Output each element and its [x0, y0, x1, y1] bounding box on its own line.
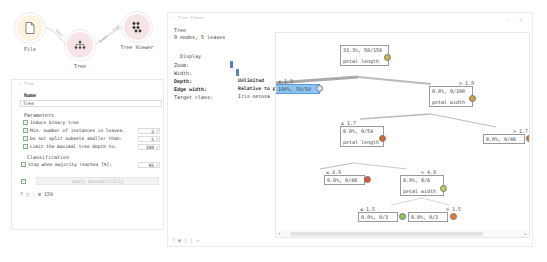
zoom-slider[interactable] [230, 61, 233, 68]
tree-node-root[interactable]: 33.3%, 50/150 petal length [340, 45, 389, 66]
max-depth-checkbox[interactable]: ✓ [23, 144, 28, 149]
spin-arrows-icon[interactable]: ▴▾ [156, 163, 158, 168]
min-instances-checkbox[interactable]: ✓ [23, 128, 28, 133]
min-instances-value: 2 [151, 129, 154, 134]
divider: | [190, 237, 193, 243]
tree-node-petal-width[interactable]: 0.0%, 0/100 petal width [429, 86, 473, 107]
node-content: 0.0%, 0/54 [343, 128, 381, 134]
scroll-left-icon[interactable]: ◂ [278, 230, 280, 237]
workflow-canvas: Data Model → Tree File Tree Tree Vi [0, 0, 165, 62]
pie-chart-icon [399, 213, 406, 220]
target-class-value: Iris-setosa [238, 94, 270, 99]
zoom-label: Zoom: [174, 62, 189, 68]
apply-row: ✓ Apply Automatically [21, 177, 159, 185]
node-content: 33.3%, 50/150 [343, 47, 386, 53]
viewer-footer: ? ▣ ▢ | ▭ [172, 237, 199, 243]
info-text: 9 nodes, 5 leaves [174, 34, 225, 40]
induce-binary-checkbox[interactable]: ✓ [23, 120, 28, 125]
scroll-right-icon[interactable]: ▸ [525, 230, 527, 237]
width-slider[interactable] [236, 69, 239, 76]
node-content: 0.0%, 0/48 [327, 177, 362, 183]
node-content: 0.0%, 0/3 [411, 214, 445, 220]
stop-majority-value: 95 [149, 163, 154, 168]
info-title: Tree [174, 27, 186, 33]
pie-chart-icon [379, 135, 386, 142]
min-split-value: 5 [151, 137, 154, 142]
min-split-checkbox[interactable]: ✓ [23, 136, 28, 141]
depth-label: Depth: [174, 78, 192, 84]
spin-arrows-icon[interactable]: ▴▾ [156, 137, 158, 142]
save-image-icon[interactable]: ▣ [178, 237, 181, 243]
tree-node-petal-width-2[interactable]: 0.0%, 0/6 petal width [400, 175, 444, 196]
min-instances-spinbox[interactable]: 2▴▾ [138, 128, 160, 134]
pie-chart-icon [469, 95, 476, 102]
tree-panel-title-bar: ⑂ Tree [12, 80, 163, 87]
tree-panel-title: Tree [24, 81, 34, 86]
node-attribute: petal width [403, 188, 441, 194]
tree-small-icon: ⑂ [19, 81, 21, 86]
tree-node-petal-length[interactable]: 0.0%, 0/54 petal length [340, 126, 384, 147]
tree-viewer-widget-label: Tree Viewer [120, 44, 153, 50]
tree-node-leaf-48[interactable]: 0.0%, 0/48 [324, 175, 365, 185]
node-content: 0.0%, 0/46 [486, 136, 522, 142]
classification-title: Classification [27, 154, 69, 160]
tree-node-leaf-virginica[interactable]: 0.0%, 0/46 [483, 134, 525, 144]
pie-chart-icon [316, 85, 323, 92]
pie-chart-icon [526, 135, 530, 142]
tree-canvas[interactable]: 33.3%, 50/150 petal length ≤ 1.9 100%, 5… [275, 32, 530, 238]
data-input-icon: ≡ [38, 191, 41, 197]
target-class-label: Target class: [174, 94, 213, 100]
max-depth-label: Limit the maximal tree depth to: [30, 144, 138, 149]
instance-count: 150 [44, 191, 53, 197]
report-icon[interactable]: ▢ [184, 237, 187, 243]
file-widget[interactable] [17, 15, 43, 41]
horizontal-scrollbar[interactable]: ◂ ▸ [276, 230, 529, 237]
width-label: Width: [174, 70, 192, 76]
file-widget-label: File [24, 46, 36, 52]
pie-chart-icon [450, 213, 457, 220]
param-min-instances: ✓ Min. number of instances in leaves: 2▴… [23, 127, 160, 134]
name-label: Name [24, 92, 36, 98]
min-split-label: Do not split subsets smaller than: [30, 136, 138, 141]
node-attribute: petal length [343, 139, 381, 145]
stop-majority-checkbox[interactable]: ✓ [21, 162, 26, 167]
display-title: Display [180, 53, 201, 59]
scrollbar-thumb[interactable] [290, 232, 483, 237]
max-depth-spinbox[interactable]: 100▴▾ [138, 144, 160, 150]
node-content: 0.0%, 0/100 [432, 88, 470, 94]
report-icon[interactable]: ▢ [26, 191, 29, 197]
apply-auto-checkbox[interactable]: ✓ [21, 179, 26, 184]
viewer-title-bar: ⑂ Tree Viewer [168, 13, 532, 21]
window-controls[interactable]: – × [506, 17, 526, 22]
apply-button[interactable]: Apply Automatically [36, 177, 159, 185]
param-max-depth: ✓ Limit the maximal tree depth to: 100▴▾ [23, 143, 160, 150]
pie-chart-icon [384, 54, 391, 61]
spin-arrows-icon[interactable]: ▴▾ [156, 145, 158, 150]
min-split-spinbox[interactable]: 5▴▾ [138, 136, 160, 142]
help-icon[interactable]: ? [172, 237, 175, 243]
parameters-title: Parameters [24, 112, 54, 118]
min-instances-label: Min. number of instances in leaves: [30, 128, 138, 133]
param-stop-majority: ✓ Stop when majority reaches [%]: 95▴▾ [21, 161, 160, 168]
edge-label: > 1.5 [446, 206, 461, 212]
pie-chart-icon [440, 185, 447, 192]
tree-viewer-small-icon: ⑂ [172, 15, 174, 20]
node-content: 0.0%, 0/6 [403, 177, 441, 183]
name-input[interactable]: Tree [20, 100, 162, 107]
node-attribute: petal length [343, 58, 386, 64]
spin-arrows-icon[interactable]: ▴▾ [156, 129, 158, 134]
max-depth-value: 100 [146, 145, 154, 150]
tree-node-leaf-versicolor[interactable]: 0.0%, 0/3 [358, 212, 398, 222]
divider: | [32, 191, 35, 197]
tree-widget-panel: ⑂ Tree Name Tree Parameters ✓ Induce bin… [11, 79, 164, 230]
tree-node-leaf-setosa[interactable]: 100%, 50/50 [275, 84, 320, 94]
tree-viewer-window: ⑂ Tree Viewer – × Tree 9 nodes, 5 leaves… [167, 12, 533, 247]
tree-node-leaf-virginica-2[interactable]: 0.0%, 0/3 [408, 212, 448, 222]
tree-viewer-widget[interactable] [124, 14, 150, 40]
help-icon[interactable]: ? [20, 191, 23, 197]
viewer-title: Tree Viewer [178, 15, 205, 20]
induce-binary-label: Induce binary tree [30, 120, 160, 125]
param-induce-binary[interactable]: ✓ Induce binary tree [23, 119, 160, 126]
stop-majority-spinbox[interactable]: 95▴▾ [138, 162, 160, 168]
tree-widget[interactable] [67, 32, 93, 58]
